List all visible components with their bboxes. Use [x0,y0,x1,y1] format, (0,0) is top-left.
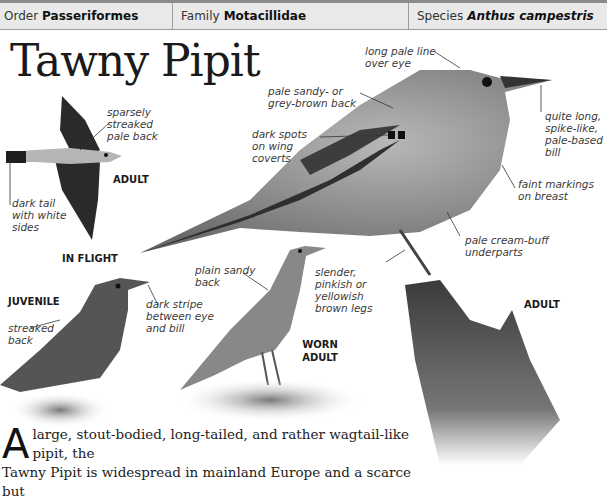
label-back: pale sandy- or grey-brown back [268,85,368,109]
body-paragraph: A large, stout-bodied, long-tailed, and … [2,425,422,500]
caption-juvenile: JUVENILE [8,295,60,308]
caption-in-flight-adult: ADULT [113,173,149,186]
label-dark-tail: dark tail with white sides [12,197,77,233]
label-eye-line: long pale line over eye [365,45,440,69]
label-wing-coverts: dark spots on wing coverts [252,128,322,164]
caption-in-flight: IN FLIGHT [62,252,118,265]
dropcap: A [2,426,29,462]
label-dark-stripe: dark stripe between eye and bill [146,298,226,334]
label-legs: slender, pinkish or yellowish brown legs [315,266,395,314]
label-streaked-back: streaked back [8,322,58,346]
body-line-1: large, stout-bodied, long-tailed, and ra… [32,426,409,461]
label-sparsely-streaked-back: sparsely streaked pale back [107,106,177,142]
body-line-2: Tawny Pipit is widespread in mainland Eu… [2,464,411,499]
caption-adult: ADULT [524,298,560,311]
label-bill: quite long, spike-like, pale-based bill [545,110,605,158]
caption-worn-adult: WORN ADULT [300,338,340,364]
label-underparts: pale cream-buff underparts [465,234,555,258]
label-plain-sandy-back: plain sandy back [195,264,260,288]
label-breast: faint markings on breast [518,178,598,202]
